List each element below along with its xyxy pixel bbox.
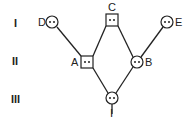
label-b: B	[145, 57, 152, 68]
individual-i-circle	[106, 92, 118, 104]
individual-d-circle	[46, 16, 58, 28]
edge-e-b	[141, 27, 163, 57]
edge-d-a	[57, 27, 81, 56]
edge-a-i	[93, 68, 108, 93]
label-a: A	[71, 57, 78, 68]
label-e: E	[175, 17, 182, 28]
pedigree-diagram	[0, 0, 192, 120]
generation-label-2: II	[12, 55, 18, 67]
generation-label-1: I	[14, 17, 17, 29]
individual-c-square	[106, 14, 118, 26]
individual-a-square	[81, 56, 93, 68]
individual-e-circle	[161, 16, 173, 28]
label-c: C	[108, 2, 116, 13]
label-i: I	[110, 108, 113, 119]
edge-c-a	[93, 26, 106, 56]
edge-b-i	[116, 67, 133, 93]
individual-b-circle	[131, 56, 143, 68]
generation-label-3: III	[11, 93, 20, 105]
label-d: D	[38, 17, 46, 28]
edge-c-b	[118, 26, 133, 57]
